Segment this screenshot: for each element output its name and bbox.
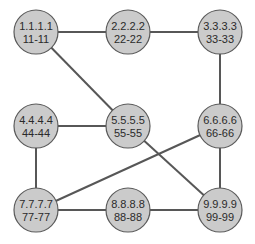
node-circle: [198, 10, 242, 54]
node-id-label: 66-66: [206, 127, 234, 139]
node-circle: [14, 188, 58, 232]
node-id-label: 11-11: [23, 33, 50, 45]
node-id-label: 88-88: [114, 211, 142, 223]
node-ip-label: 9.9.9.9: [203, 198, 237, 210]
node-3[interactable]: 3.3.3.3 33-33: [198, 10, 242, 54]
node-id-label: 55-55: [114, 127, 142, 139]
node-circle: [106, 188, 150, 232]
node-ip-label: 6.6.6.6: [203, 114, 237, 126]
node-id-label: 22-22: [114, 33, 142, 45]
node-2[interactable]: 2.2.2.2 22-22: [106, 10, 150, 54]
network-diagram: 1.1.1.1 11-11 2.2.2.2 22-22 3.3.3.3 33-3…: [0, 0, 255, 244]
node-id-label: 77-77: [22, 211, 50, 223]
node-ip-label: 7.7.7.7: [19, 198, 53, 210]
node-circle: [14, 104, 58, 148]
node-ip-label: 2.2.2.2: [111, 20, 145, 32]
node-8[interactable]: 8.8.8.8 88-88: [106, 188, 150, 232]
node-ip-label: 5.5.5.5: [111, 114, 145, 126]
node-circle: [106, 104, 150, 148]
node-circle: [198, 188, 242, 232]
node-circle: [198, 104, 242, 148]
node-circle: [14, 10, 58, 54]
node-circle: [106, 10, 150, 54]
node-9[interactable]: 9.9.9.9 99-99: [198, 188, 242, 232]
node-4[interactable]: 4.4.4.4 44-44: [14, 104, 58, 148]
node-5[interactable]: 5.5.5.5 55-55: [106, 104, 150, 148]
node-ip-label: 8.8.8.8: [111, 198, 145, 210]
node-id-label: 33-33: [206, 33, 234, 45]
node-id-label: 44-44: [22, 127, 50, 139]
node-6[interactable]: 6.6.6.6 66-66: [198, 104, 242, 148]
node-ip-label: 1.1.1.1: [19, 20, 53, 32]
node-ip-label: 4.4.4.4: [19, 114, 53, 126]
nodes-layer: 1.1.1.1 11-11 2.2.2.2 22-22 3.3.3.3 33-3…: [14, 10, 242, 232]
node-id-label: 99-99: [206, 211, 234, 223]
node-ip-label: 3.3.3.3: [203, 20, 237, 32]
node-7[interactable]: 7.7.7.7 77-77: [14, 188, 58, 232]
node-1[interactable]: 1.1.1.1 11-11: [14, 10, 58, 54]
